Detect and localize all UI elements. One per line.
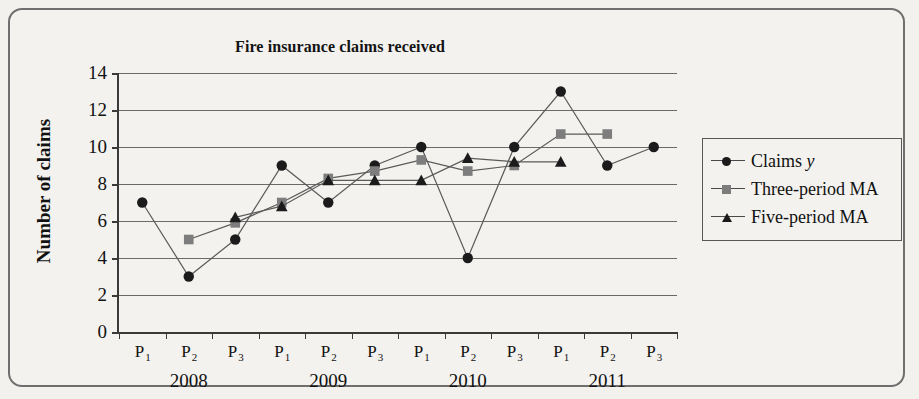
x-tick-mark <box>445 332 446 339</box>
data-point-square <box>463 166 473 176</box>
chart-legend: Claims y Three-period MA Five-period MA <box>702 138 902 241</box>
square-marker-icon <box>711 182 745 196</box>
data-point-circle <box>137 197 147 207</box>
y-tick-mark <box>112 332 119 334</box>
y-tick-mark <box>112 258 119 260</box>
y-tick-label: 0 <box>98 321 108 343</box>
x-period-label: P2 <box>321 342 336 362</box>
legend-item-claims: Claims y <box>711 147 891 175</box>
y-tick-label: 10 <box>88 136 107 158</box>
circle-marker-icon <box>711 154 745 168</box>
data-point-square <box>184 235 194 245</box>
y-tick-mark <box>112 110 119 112</box>
x-year-label: 2011 <box>589 370 626 392</box>
series-line <box>142 92 654 277</box>
x-period-label: P1 <box>274 342 289 362</box>
data-point-circle <box>602 160 612 170</box>
x-tick-mark <box>212 332 213 339</box>
legend-label-five-period-ma: Five-period MA <box>751 207 868 228</box>
x-tick-mark <box>259 332 260 339</box>
y-axis-title: Number of claims <box>33 71 55 311</box>
y-tick-mark <box>112 184 119 186</box>
legend-label-claims: Claims y <box>751 151 815 172</box>
x-tick-mark <box>398 332 399 339</box>
triangle-marker-icon <box>711 210 745 224</box>
chart-title: Fire insurance claims received <box>10 38 670 56</box>
data-point-circle <box>184 271 194 281</box>
data-point-circle <box>323 197 333 207</box>
y-tick-mark <box>112 147 119 149</box>
x-period-label: P1 <box>414 342 429 362</box>
x-period-label: P2 <box>600 342 615 362</box>
x-tick-mark <box>119 332 120 339</box>
legend-item-three-period-ma: Three-period MA <box>711 175 891 203</box>
x-period-label: P3 <box>507 342 522 362</box>
chart-page: Fire insurance claims received Number of… <box>0 0 919 399</box>
x-year-label: 2010 <box>449 370 487 392</box>
series-plot <box>119 73 677 332</box>
data-point-circle <box>277 160 287 170</box>
series-circle <box>137 86 659 281</box>
data-point-square <box>416 155 426 165</box>
figure-frame: Fire insurance claims received Number of… <box>8 8 905 387</box>
data-point-square <box>602 129 612 139</box>
x-period-label: P2 <box>181 342 196 362</box>
y-tick-label: 2 <box>98 284 108 306</box>
data-point-circle <box>556 86 566 96</box>
y-tick-label: 4 <box>98 247 108 269</box>
series-line <box>189 134 608 239</box>
x-tick-mark <box>305 332 306 339</box>
data-point-circle <box>416 142 426 152</box>
y-tick-label: 12 <box>88 99 107 121</box>
x-period-label: P1 <box>553 342 568 362</box>
y-tick-label: 8 <box>98 173 108 195</box>
data-point-square <box>370 166 380 176</box>
x-period-label: P3 <box>646 342 661 362</box>
y-tick-label: 14 <box>88 62 107 84</box>
x-tick-mark <box>584 332 585 339</box>
x-period-label: P3 <box>367 342 382 362</box>
x-tick-mark <box>631 332 632 339</box>
y-tick-mark <box>112 73 119 75</box>
x-tick-mark <box>352 332 353 339</box>
data-point-circle <box>463 253 473 263</box>
data-point-square <box>556 129 566 139</box>
y-tick-mark <box>112 221 119 223</box>
x-period-label: P2 <box>460 342 475 362</box>
x-tick-mark <box>166 332 167 339</box>
x-period-label: P1 <box>135 342 150 362</box>
legend-item-five-period-ma: Five-period MA <box>711 203 891 231</box>
legend-label-three-period-ma: Three-period MA <box>751 179 878 200</box>
series-square <box>184 129 612 244</box>
x-tick-mark <box>491 332 492 339</box>
data-point-circle <box>230 234 240 244</box>
data-point-circle <box>649 142 659 152</box>
x-tick-mark <box>538 332 539 339</box>
data-point-circle <box>509 142 519 152</box>
x-period-label: P3 <box>228 342 243 362</box>
x-tick-mark <box>677 332 678 339</box>
plot-area: 02468101214 P1P2P3P1P2P3P1P2P3P1P2P3 200… <box>117 73 677 334</box>
y-tick-label: 6 <box>98 210 108 232</box>
x-year-label: 2009 <box>309 370 347 392</box>
data-point-triangle <box>462 152 474 163</box>
x-year-label: 2008 <box>170 370 208 392</box>
y-tick-mark <box>112 295 119 297</box>
